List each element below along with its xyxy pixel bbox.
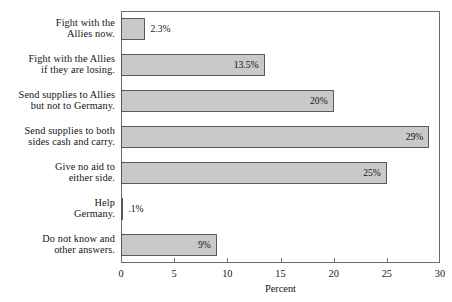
category-label-line: Give no aid to xyxy=(0,161,115,172)
category-label: Do not know andother answers. xyxy=(0,233,115,256)
axis-tick-label: 15 xyxy=(275,268,285,279)
category-label-line: either side. xyxy=(0,172,115,183)
x-axis-ticks: 051015202530 xyxy=(121,263,440,269)
category-label: Fight with theAllies now. xyxy=(0,17,115,40)
axis-tick xyxy=(174,258,175,263)
axis-tick-label: 10 xyxy=(222,268,232,279)
bar xyxy=(121,198,123,220)
bars-layer: 2.3%13.5%20%29%25%.1%9% xyxy=(121,11,440,263)
axis-tick-label: 25 xyxy=(382,268,392,279)
category-label: Fight with the Alliesif they are losing. xyxy=(0,53,115,76)
category-label: Give no aid toeither side. xyxy=(0,161,115,184)
category-label-line: Fight with the Allies xyxy=(0,53,115,64)
bar-value-label: 9% xyxy=(121,240,211,250)
category-label-line: Help xyxy=(0,197,115,208)
category-label-line: Do not know and xyxy=(0,233,115,244)
axis-tick xyxy=(439,258,440,263)
axis-tick xyxy=(121,258,122,263)
axis-tick-label: 20 xyxy=(329,268,339,279)
bar-value-label: 2.3% xyxy=(150,24,170,34)
category-label: Send supplies to Alliesbut not to German… xyxy=(0,89,115,112)
bar-value-label: 29% xyxy=(121,132,423,142)
bar-value-label: 13.5% xyxy=(121,60,259,70)
bar xyxy=(121,18,145,40)
category-axis-labels: Fight with theAllies now.Fight with the … xyxy=(0,11,118,263)
bar-value-label: 20% xyxy=(121,96,328,106)
category-label-line: Germany. xyxy=(0,208,115,219)
bar-value-label: 25% xyxy=(121,168,381,178)
axis-tick xyxy=(227,258,228,263)
category-label-line: if they are losing. xyxy=(0,64,115,75)
bar-chart: Fight with theAllies now.Fight with the … xyxy=(0,0,452,302)
x-axis-title: Percent xyxy=(121,283,440,294)
category-label: Send supplies to bothsides cash and carr… xyxy=(0,125,115,148)
category-label-line: sides cash and carry. xyxy=(0,136,115,147)
bar-value-label: .1% xyxy=(128,204,143,214)
axis-tick xyxy=(387,258,388,263)
chart-title xyxy=(121,0,440,1)
axis-tick xyxy=(281,258,282,263)
category-label-line: Send supplies to both xyxy=(0,125,115,136)
axis-tick-label: 30 xyxy=(435,268,445,279)
category-label-line: Send supplies to Allies xyxy=(0,89,115,100)
axis-tick-label: 0 xyxy=(118,268,123,279)
category-label-line: other answers. xyxy=(0,244,115,255)
axis-tick-label: 5 xyxy=(172,268,177,279)
category-label-line: but not to Germany. xyxy=(0,100,115,111)
axis-tick xyxy=(334,258,335,263)
category-label-line: Allies now. xyxy=(0,28,115,39)
category-label-line: Fight with the xyxy=(0,17,115,28)
category-label: HelpGermany. xyxy=(0,197,115,220)
